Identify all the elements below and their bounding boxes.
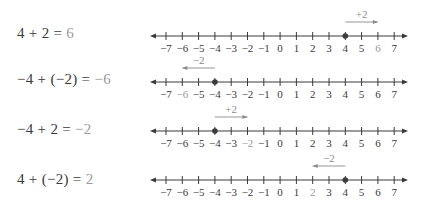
tick-label: 4 [343,137,349,149]
tick-label: −3 [225,186,237,198]
start-point [343,33,349,39]
tick-label: −4 [209,42,221,54]
tick-label: −1 [258,137,270,149]
tick-label: −1 [258,186,270,198]
tick-label: 3 [326,88,332,100]
tick-label: −5 [193,42,205,54]
tick-label: −3 [225,42,237,54]
tick-label: −6 [176,42,188,54]
arrow-left-icon [150,129,156,134]
step-label: −2 [193,54,205,66]
arrow-left-icon [150,34,156,39]
start-point [343,177,349,183]
step-arrowhead-icon [182,66,187,70]
tick-label: −7 [160,186,172,198]
tick-label: −6 [176,186,188,198]
tick-label: 0 [277,137,283,149]
tick-label: 3 [326,186,332,198]
tick-label: −6 [176,88,188,100]
tick-label: −7 [160,88,172,100]
tick-label: 7 [391,137,397,149]
tick-label: −3 [225,137,237,149]
step-label: −2 [323,152,335,164]
arrow-right-icon [402,178,408,183]
number-lines: −7−6−5−4−3−2−101234567+2−7−6−5−4−3−2−101… [0,0,421,208]
tick-label: 3 [326,42,332,54]
tick-label: 7 [391,186,397,198]
tick-label: −2 [242,88,254,100]
tick-label: −7 [160,137,172,149]
tick-label: 3 [326,137,332,149]
step-arrowhead-icon [313,164,318,168]
tick-label: 2 [310,88,316,100]
start-point [212,128,218,134]
step-arrowhead-icon [243,115,248,119]
step-label: +2 [356,8,368,20]
tick-label: 7 [391,88,397,100]
tick-label: −6 [176,137,188,149]
tick-label: 2 [310,42,316,54]
tick-label: 6 [375,42,381,54]
tick-label: 5 [359,186,365,198]
tick-label: −4 [209,137,221,149]
step-label: +2 [225,103,237,115]
tick-label: 6 [375,88,381,100]
arrow-right-icon [402,129,408,134]
tick-label: 5 [359,42,365,54]
tick-label: 0 [277,186,283,198]
tick-label: −4 [209,186,221,198]
tick-label: −7 [160,42,172,54]
tick-label: 5 [359,137,365,149]
tick-label: 7 [391,42,397,54]
tick-label: 4 [343,42,349,54]
tick-label: −3 [225,88,237,100]
arrow-left-icon [150,80,156,85]
tick-label: −1 [258,88,270,100]
tick-label: 6 [375,186,381,198]
tick-label: 4 [343,88,349,100]
tick-label: 6 [375,137,381,149]
tick-label: 1 [294,137,300,149]
start-point [212,79,218,85]
arrow-right-icon [402,80,408,85]
tick-label: −5 [193,88,205,100]
step-arrowhead-icon [373,20,378,24]
tick-label: −2 [242,42,254,54]
tick-label: 1 [294,186,300,198]
tick-label: −2 [242,137,254,149]
tick-label: −5 [193,137,205,149]
tick-label: −4 [209,88,221,100]
arrow-right-icon [402,34,408,39]
tick-label: 4 [343,186,349,198]
tick-label: 2 [310,137,316,149]
tick-label: 0 [277,88,283,100]
arrow-left-icon [150,178,156,183]
tick-label: −2 [242,186,254,198]
tick-label: 1 [294,42,300,54]
tick-label: 0 [277,42,283,54]
tick-label: 5 [359,88,365,100]
tick-label: −5 [193,186,205,198]
tick-label: 2 [310,186,316,198]
tick-label: −1 [258,42,270,54]
tick-label: 1 [294,88,300,100]
